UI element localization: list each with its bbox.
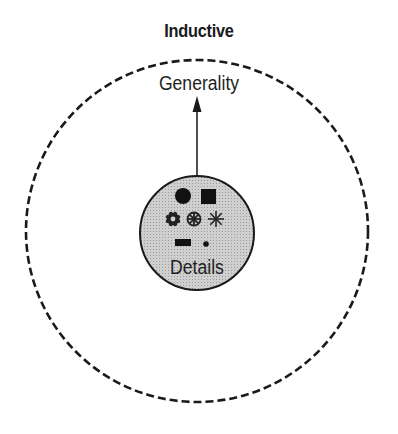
snowflake-ring-icon — [188, 213, 201, 226]
details-label: Details — [153, 256, 241, 279]
diagram-canvas — [0, 0, 398, 434]
asterisk-icon — [208, 211, 224, 227]
filled-rectangle-icon — [175, 239, 191, 246]
generality-label: Generality — [24, 72, 374, 95]
small-dot-icon — [203, 241, 209, 247]
filled-circle-icon — [175, 188, 191, 204]
upward-arrow-icon — [193, 96, 202, 176]
flower-ring-icon — [164, 210, 181, 227]
filled-square-icon — [201, 189, 216, 204]
